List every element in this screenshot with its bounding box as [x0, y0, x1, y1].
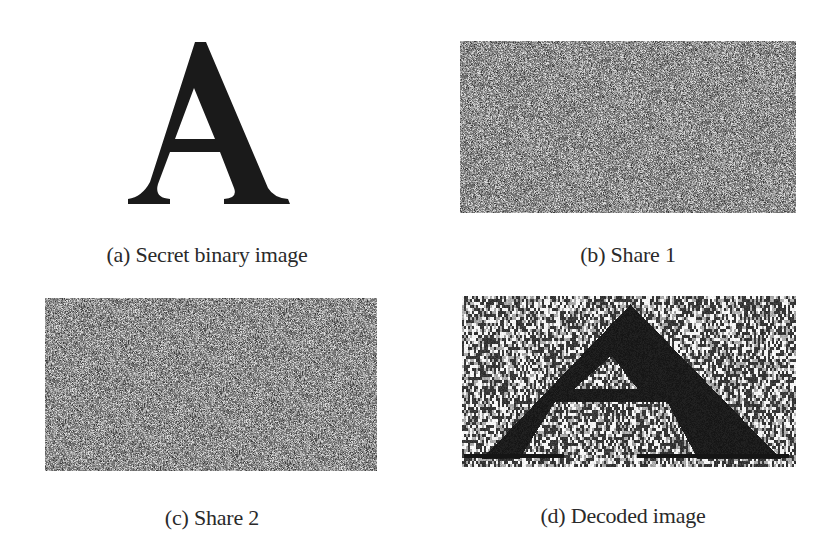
caption-d: (d) Decoded image	[540, 503, 705, 529]
caption-a: (a) Secret binary image	[106, 242, 307, 268]
caption-c: (c) Share 2	[165, 505, 259, 531]
caption-b: (b) Share 1	[580, 242, 676, 268]
share-1-image	[460, 41, 796, 213]
letter-a-image	[128, 42, 292, 204]
share-2-image	[45, 298, 377, 471]
decoded-image	[462, 296, 796, 467]
